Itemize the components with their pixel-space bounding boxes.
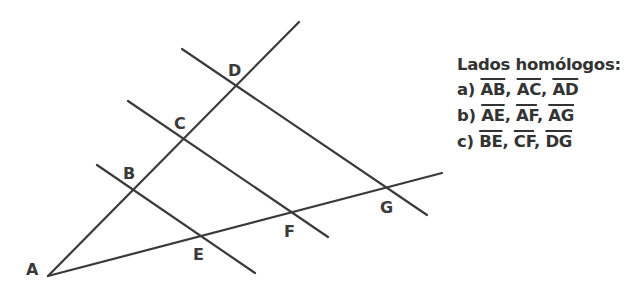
separator: , <box>505 106 511 125</box>
point-label-C: C <box>174 114 186 133</box>
point-label-D: D <box>228 61 241 80</box>
legend-row-c: c) BE, CF, DG <box>457 129 621 155</box>
legend-row-a: a) AB, AC, AD <box>457 77 621 103</box>
segment-DG: DG <box>545 132 572 151</box>
segment-AD: AD <box>552 80 578 99</box>
separator: , <box>541 80 547 99</box>
separator: , <box>534 132 540 151</box>
row-prefix: b) <box>457 106 476 125</box>
line-parallel-DG <box>182 49 427 215</box>
point-label-F: F <box>284 222 295 241</box>
line-parallel-CF <box>128 101 328 237</box>
point-label-G: G <box>380 198 393 217</box>
segment-BE: BE <box>479 132 502 151</box>
point-label-B: B <box>123 164 135 183</box>
row-prefix: a) <box>457 80 475 99</box>
separator: , <box>502 132 508 151</box>
segment-AG: AG <box>548 106 574 125</box>
homologous-sides-legend: Lados homólogos: a) AB, AC, AD b) AE, AF… <box>457 52 621 155</box>
separator: , <box>505 80 511 99</box>
segment-AB: AB <box>481 80 506 99</box>
point-labels-layer: ABCDEFG <box>26 61 393 279</box>
legend-row-b: b) AE, AF, AG <box>457 103 621 129</box>
point-label-E: E <box>193 245 204 264</box>
row-prefix: c) <box>457 132 474 151</box>
line-ray-AD <box>48 22 299 276</box>
segment-AC: AC <box>517 80 541 99</box>
separator: , <box>537 106 543 125</box>
lines-layer <box>48 22 442 276</box>
legend-title: Lados homólogos: <box>457 52 621 77</box>
line-ray-AG <box>48 173 442 276</box>
segment-CF: CF <box>514 132 534 151</box>
segment-AE: AE <box>481 106 504 125</box>
point-label-A: A <box>26 260 39 279</box>
segment-AF: AF <box>516 106 537 125</box>
